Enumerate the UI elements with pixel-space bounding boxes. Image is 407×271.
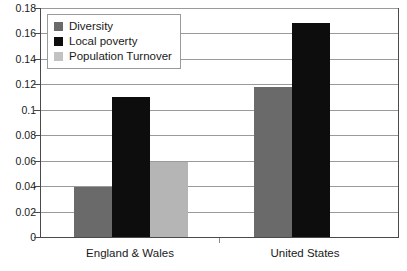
y-axis-tick-label: 0.04 (2, 181, 36, 191)
y-axis-tick-label: 0.14 (2, 54, 36, 64)
x-axis-group-separator-tick (219, 238, 220, 243)
bar-chart: 0.18 0.16 0.14 0.12 0.1 0.08 0.06 0.04 0… (0, 0, 407, 271)
legend-label: Local poverty (69, 35, 137, 48)
y-axis-line (40, 8, 41, 238)
bar-united-states-diversity (254, 87, 292, 237)
x-axis-category-label-united-states: United States (245, 247, 365, 259)
y-axis-tick-label: 0.1 (2, 105, 36, 115)
legend-item-diversity: Diversity (54, 19, 172, 34)
y-axis-tick-label: 0 (2, 232, 36, 242)
y-axis-tick-label: 0.18 (2, 3, 36, 13)
bar-england-wales-local-poverty (112, 97, 150, 237)
y-axis-tick-label: 0.08 (2, 130, 36, 140)
legend-swatch-icon (54, 52, 63, 61)
legend-label: Diversity (69, 20, 113, 33)
legend-swatch-icon (54, 37, 63, 46)
y-axis-tick-label: 0.02 (2, 207, 36, 217)
y-axis-tick-label: 0.06 (2, 156, 36, 166)
legend-item-population-turnover: Population Turnover (54, 49, 172, 64)
y-axis-labels: 0.18 0.16 0.14 0.12 0.1 0.08 0.06 0.04 0… (0, 0, 36, 271)
legend-item-local-poverty: Local poverty (54, 34, 172, 49)
bar-england-wales-population-turnover (150, 162, 188, 237)
legend-swatch-icon (54, 22, 63, 31)
bar-england-wales-diversity (74, 187, 112, 237)
y-axis-tick-label: 0.16 (2, 28, 36, 38)
x-axis-category-label-england-wales: England & Wales (70, 247, 190, 259)
y-axis-tick-label: 0.12 (2, 79, 36, 89)
plot-right-border (398, 8, 399, 238)
legend-label: Population Turnover (69, 50, 172, 63)
bar-united-states-local-poverty (292, 23, 330, 237)
chart-legend: Diversity Local poverty Population Turno… (47, 14, 181, 69)
